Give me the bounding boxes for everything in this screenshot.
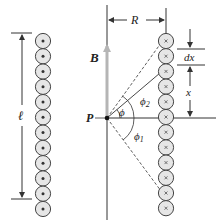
wire-into-page — [158, 64, 173, 79]
wire-out-of-page — [35, 64, 50, 79]
dot-icon — [42, 207, 45, 210]
wire-into-page — [158, 109, 173, 124]
x-dimension: x — [185, 67, 191, 116]
x-label: x — [185, 86, 191, 98]
angle-phi2-label: ϕ2 — [140, 95, 150, 109]
wire-into-page — [158, 155, 173, 170]
radius-label: R — [130, 13, 139, 27]
dot-icon — [42, 55, 45, 58]
wire-out-of-page — [35, 201, 50, 216]
left-wire-column — [35, 33, 50, 216]
dot-icon — [42, 116, 45, 119]
wire-out-of-page — [35, 94, 50, 109]
dot-icon — [42, 70, 45, 73]
dot-icon — [42, 192, 45, 195]
dot-icon — [42, 85, 45, 88]
dot-icon — [42, 101, 45, 104]
wire-into-page — [158, 94, 173, 109]
dashed-line-bottom — [107, 118, 161, 191]
length-label: ℓ — [18, 108, 24, 123]
wire-out-of-page — [35, 156, 50, 171]
wire-out-of-page — [35, 79, 50, 94]
solenoid-diagram: ℓ B R ϕ ϕ2 ϕ1 P dx x — [0, 0, 216, 220]
wire-out-of-page — [35, 171, 50, 186]
dot-icon — [42, 40, 45, 43]
dot-icon — [42, 177, 45, 180]
wire-out-of-page — [35, 140, 50, 155]
angle-phi-label: ϕ — [119, 106, 125, 118]
length-dimension: ℓ — [11, 33, 32, 199]
wire-into-page — [158, 79, 173, 94]
angle-phi1-label: ϕ1 — [134, 130, 144, 144]
radius-dimension: R — [109, 8, 166, 33]
dx-dimension: dx — [177, 29, 205, 65]
wire-into-page — [158, 170, 173, 185]
wire-out-of-page — [35, 33, 50, 48]
wire-into-page — [158, 201, 173, 216]
point-p — [105, 116, 110, 121]
wire-into-page — [158, 49, 173, 64]
wire-out-of-page — [35, 49, 50, 64]
wire-into-page — [158, 140, 173, 155]
wire-out-of-page — [35, 110, 50, 125]
wire-into-page — [158, 185, 173, 200]
wire-into-page — [158, 33, 173, 48]
dot-icon — [42, 162, 45, 165]
wire-out-of-page — [35, 186, 50, 201]
dashed-line-top — [107, 43, 161, 118]
wire-out-of-page — [35, 125, 50, 140]
wire-into-page — [158, 125, 173, 140]
right-wire-column — [158, 33, 173, 215]
angle-phi1-arc — [123, 118, 134, 140]
dx-label: dx — [184, 51, 195, 63]
field-label: B — [89, 50, 99, 65]
dot-icon — [42, 146, 45, 149]
point-label: P — [86, 111, 94, 125]
dot-icon — [42, 131, 45, 134]
